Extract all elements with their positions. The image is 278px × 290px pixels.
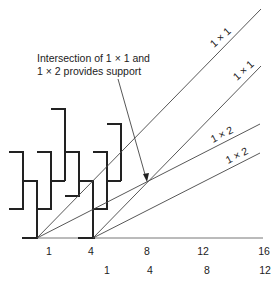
line-1x2-from-1 bbox=[37, 124, 260, 238]
tick-label: 1 bbox=[46, 245, 52, 257]
label-1x1-a: 1 × 1 bbox=[207, 25, 233, 50]
tick-label: 12 bbox=[197, 245, 209, 257]
line-1x2-from-4 bbox=[93, 153, 260, 238]
annotation-arrow bbox=[118, 79, 146, 178]
axis-bottom-labels: 1 4 8 12 bbox=[104, 264, 271, 276]
swing-chart-diagram: 1 × 1 1 × 1 1 × 2 1 × 2 1 4 8 12 16 1 4 … bbox=[0, 0, 278, 290]
label-1x1-b: 1 × 1 bbox=[230, 58, 256, 83]
tick-label: 4 bbox=[147, 264, 153, 276]
tick-label: 8 bbox=[204, 264, 210, 276]
label-1x2-b: 1 × 2 bbox=[223, 144, 250, 165]
swing-staircase bbox=[9, 109, 121, 238]
axis-top-labels: 1 4 8 12 16 bbox=[46, 245, 270, 257]
arrow-head-icon bbox=[143, 173, 149, 182]
label-1x2-a: 1 × 2 bbox=[208, 123, 235, 144]
tick-label: 12 bbox=[259, 264, 271, 276]
tick-label: 4 bbox=[88, 245, 94, 257]
tick-label: 1 bbox=[104, 264, 110, 276]
tick-label: 8 bbox=[144, 245, 150, 257]
tick-label: 16 bbox=[258, 245, 270, 257]
